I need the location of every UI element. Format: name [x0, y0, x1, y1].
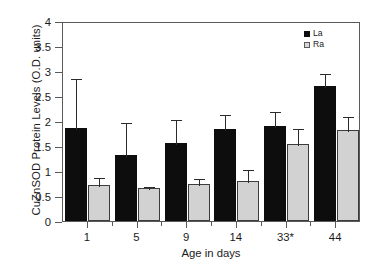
error-bar-stem — [76, 79, 77, 130]
error-bar-stem — [99, 178, 100, 187]
error-bar-cap — [243, 170, 254, 171]
x-axis-minor-tick — [261, 222, 262, 226]
y-axis-tick — [55, 197, 62, 198]
y-axis-tick — [55, 172, 62, 173]
error-bar-cap — [144, 187, 155, 188]
x-axis-tick — [186, 222, 187, 228]
legend-item-ra: Ra — [304, 39, 324, 50]
error-bar-cap — [171, 120, 182, 121]
y-axis-tick — [55, 222, 62, 223]
error-bar-stem — [248, 170, 249, 184]
bar-la-14 — [214, 129, 236, 222]
bar-ra-14 — [237, 181, 259, 221]
error-bar-stem — [176, 120, 177, 145]
error-bar-stem — [225, 115, 226, 131]
y-axis-tick — [55, 122, 62, 123]
bar-ra-44 — [337, 130, 359, 222]
error-bar-stem — [325, 74, 326, 88]
x-axis-minor-tick — [211, 222, 212, 226]
y-axis-tick-label: 3.5 — [11, 41, 51, 53]
chart-legend: La Ra — [304, 28, 324, 50]
error-bar-cap — [293, 129, 304, 130]
y-axis-tick-label: 2 — [11, 116, 51, 128]
error-bar-cap — [121, 123, 132, 124]
legend-swatch-ra-icon — [304, 42, 310, 48]
chart-figure: CuZnSOD Protein Levels (O.D. units) 00.5… — [0, 0, 381, 270]
error-bar-cap — [220, 115, 231, 116]
plot-series-container — [63, 23, 359, 221]
bar-ra-33 — [287, 144, 309, 222]
error-bar-cap — [194, 179, 205, 180]
bar-ra-1 — [88, 185, 110, 221]
error-bar-stem — [199, 179, 200, 186]
error-bar-cap — [270, 112, 281, 113]
legend-label-ra: Ra — [313, 39, 324, 50]
error-bar-cap — [94, 178, 105, 179]
plot-area: La Ra — [62, 22, 360, 222]
bar-ra-9 — [188, 184, 210, 222]
bar-la-9 — [165, 143, 187, 222]
x-axis-minor-tick — [310, 222, 311, 226]
x-axis-tick — [87, 222, 88, 228]
error-bar-cap — [320, 74, 331, 75]
error-bar-stem — [275, 112, 276, 128]
y-axis-tick — [55, 147, 62, 148]
error-bar-stem — [348, 117, 349, 132]
bar-ra-5 — [138, 188, 160, 222]
bar-la-5 — [115, 155, 137, 222]
y-axis-tick — [55, 72, 62, 73]
x-axis-title: Age in days — [62, 247, 360, 259]
y-axis-tick-label: 2.5 — [11, 91, 51, 103]
x-axis-tick — [286, 222, 287, 228]
legend-swatch-la-icon — [304, 31, 310, 37]
y-axis-tick-label: 1 — [11, 166, 51, 178]
x-axis-tick-label: 44 — [305, 231, 365, 243]
y-axis-tick — [55, 47, 62, 48]
legend-label-la: La — [313, 28, 323, 39]
x-axis-minor-tick — [112, 222, 113, 226]
y-axis-tick-label: 0.5 — [11, 191, 51, 203]
x-axis-tick — [236, 222, 237, 228]
bar-la-1 — [65, 128, 87, 222]
x-axis-minor-tick — [161, 222, 162, 226]
x-axis-tick — [137, 222, 138, 228]
error-bar-stem — [298, 129, 299, 146]
bar-la-44 — [314, 86, 336, 221]
bar-la-33 — [264, 126, 286, 221]
y-axis-tick-label: 0 — [11, 216, 51, 228]
y-axis-tick-label: 4 — [11, 16, 51, 28]
y-axis-tick — [55, 22, 62, 23]
y-axis-tick-label: 1.5 — [11, 141, 51, 153]
y-axis-tick — [55, 97, 62, 98]
error-bar-cap — [343, 117, 354, 118]
x-axis-tick — [335, 222, 336, 228]
error-bar-stem — [126, 123, 127, 157]
y-axis-tick-label: 3 — [11, 66, 51, 78]
legend-item-la: La — [304, 28, 324, 39]
error-bar-cap — [71, 79, 82, 80]
